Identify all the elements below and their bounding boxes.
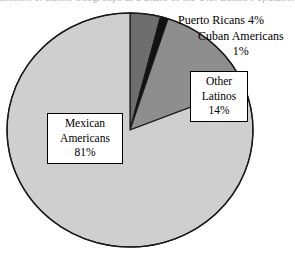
- slice-label-line-2: Latinos: [195, 89, 243, 104]
- slice-label-line-1: Puerto Ricans 4%: [178, 13, 264, 28]
- slice-label-line-3: 81%: [52, 145, 118, 160]
- slice-label-line-3: 14%: [195, 103, 243, 118]
- slice-label-puerto-ricans: Puerto Ricans 4%: [178, 13, 264, 28]
- slice-label-other-latinos: Other Latinos 14%: [190, 71, 248, 122]
- slice-label-cuban-americans: Cuban Americans 1%: [198, 29, 284, 58]
- slice-label-line-2: 1%: [198, 44, 284, 59]
- pie-chart-figure: Exhibit 1. Latino Subgroups as a Share o…: [0, 0, 295, 258]
- slice-label-line-1: Cuban Americans: [198, 29, 284, 44]
- slice-label-line-1: Other: [195, 74, 243, 89]
- slice-label-line-2: Americans: [52, 131, 118, 146]
- slice-label-mexican-americans: Mexican Americans 81%: [47, 113, 123, 164]
- slice-label-line-1: Mexican: [52, 116, 118, 131]
